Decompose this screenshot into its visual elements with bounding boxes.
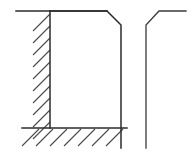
hatch-line	[36, 129, 53, 146]
line-drawing-canvas	[0, 0, 192, 155]
floor-hatching-bottom	[22, 129, 123, 146]
wall-hatching-left	[33, 14, 50, 139]
hatch-line	[78, 129, 95, 146]
chamfer-profile-right	[146, 11, 186, 148]
hatch-line	[64, 129, 81, 146]
hatch-line	[50, 129, 67, 146]
hatch-line	[92, 129, 109, 146]
figure-root	[0, 0, 192, 155]
block-interior-fill	[50, 11, 121, 128]
hatch-line	[22, 129, 39, 146]
